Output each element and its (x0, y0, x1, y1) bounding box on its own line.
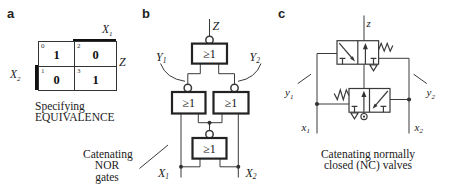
spring-icon (379, 43, 393, 51)
exhaust-triangle-icon (370, 65, 377, 71)
junction-dot (179, 165, 183, 169)
signal-label-y1: y1 (284, 86, 293, 101)
signal-label-x1: x1 (301, 121, 310, 136)
gate-symbol: ≥1 (182, 96, 195, 110)
signal-label-x2: x2 (414, 121, 424, 136)
inversion-bubble (206, 131, 213, 138)
y2-callout-arc (238, 64, 261, 82)
gate-symbol: ≥1 (225, 96, 238, 110)
inversion-bubble (206, 36, 213, 43)
signal-label-y1: Y1 (156, 50, 166, 66)
exhaust-triangle-icon (351, 113, 358, 119)
valve-circuit: z y1 y2 x1 x2 (284, 16, 435, 136)
y1-callout-slash (298, 74, 311, 83)
junction-dot (315, 102, 319, 106)
junction-dot (208, 121, 212, 125)
wire-top-gate-inputs (188, 64, 235, 85)
signal-label-z: z (366, 17, 372, 29)
wire-bottom-gate-inputs (181, 159, 238, 167)
signal-label-y2: y2 (426, 86, 436, 101)
y2-callout-slash (414, 74, 427, 83)
gate-symbol: ≥1 (203, 142, 216, 156)
inversion-bubble (231, 84, 238, 91)
spring-icon (334, 90, 349, 100)
signal-label-z: Z (213, 19, 220, 33)
nor-gate-top: ≥1 (192, 36, 227, 63)
pressure-source-dot (363, 116, 365, 118)
signal-label-x1: X1 (157, 166, 169, 182)
wire-left-pilot-x1 (317, 54, 349, 134)
signal-label-y2: Y2 (250, 50, 261, 66)
nor-gate-left: ≥1 (172, 84, 206, 113)
valve-top (337, 41, 393, 71)
gate-symbol: ≥1 (203, 47, 216, 61)
diagram-canvas: ≥1 ≥1 ≥1 ≥1 (0, 0, 450, 188)
nor-gate-bottom: ≥1 (193, 131, 227, 159)
y1-callout-arc (161, 64, 186, 82)
figure-root: a b c 0 1 2 0 1 0 3 1 X1 X2 Z Specifying… (0, 0, 450, 188)
inversion-bubble (184, 84, 191, 91)
signal-label-x2: X2 (245, 166, 257, 182)
nor-gate-right: ≥1 (214, 84, 249, 113)
junction-dot (236, 165, 240, 169)
junction-dot (407, 97, 411, 101)
nor-circuit: ≥1 ≥1 ≥1 ≥1 (140, 19, 262, 181)
